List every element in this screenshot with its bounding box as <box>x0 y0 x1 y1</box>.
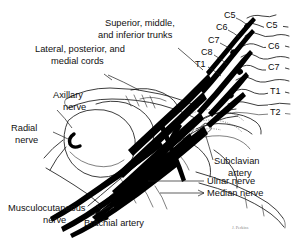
musculocutaneous-label-line1: Musculocutaneous <box>8 203 86 213</box>
nerve-root-label-c5: C5 <box>224 10 236 20</box>
trunks-label-line2: and inferior trunks <box>98 30 173 40</box>
label-brachial-artery: Brachial artery <box>84 218 144 228</box>
brachial-artery-label: Brachial artery <box>84 218 144 228</box>
label-median: Median nerve <box>207 188 263 198</box>
median-label: Median nerve <box>207 188 263 198</box>
cords-label-line1: Lateral, posterior, and <box>35 44 125 54</box>
subclavian-label-line1: Subclavian <box>214 156 259 166</box>
label-ulnar: Ulnar nerve <box>207 176 255 186</box>
vertebra-label-c7: C7 <box>268 62 280 72</box>
anatomy-illustration: Superior, middle, and inferior trunks La… <box>0 0 294 244</box>
nerve-root-label-c7: C7 <box>208 35 220 45</box>
nerve-root-label-c6: C6 <box>216 22 228 32</box>
vertebra-label-t1: T1 <box>270 86 281 96</box>
radial-label-line2: nerve <box>15 135 38 145</box>
ulnar-label: Ulnar nerve <box>207 176 255 186</box>
axillary-label-line2: nerve <box>63 102 86 112</box>
brachial-plexus-figure: Superior, middle, and inferior trunks La… <box>0 0 294 244</box>
radial-label-line1: Radial <box>11 123 37 133</box>
vertebra-label-t2: T2 <box>270 107 281 117</box>
musculocutaneous-label-line2: nerve <box>43 215 66 225</box>
nerve-root-label-t1: T1 <box>195 59 206 69</box>
axillary-label-line1: Axillary <box>53 90 83 100</box>
artist-signature: J. Perkins <box>232 225 249 230</box>
trunks-label-line1: Superior, middle, <box>105 18 175 28</box>
nerve-root-label-c8: C8 <box>201 47 213 57</box>
cords-label-line2: medial cords <box>51 56 104 66</box>
vertebra-label-c5: C5 <box>266 20 278 30</box>
vertebra-label-c6: C6 <box>268 41 280 51</box>
